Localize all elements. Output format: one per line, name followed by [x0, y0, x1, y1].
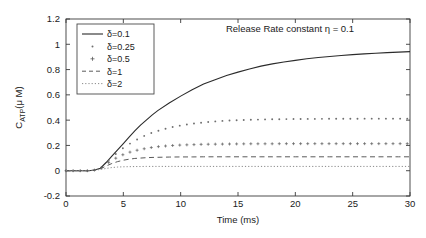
series-marker-point	[392, 118, 394, 120]
x-tick-label: 15	[233, 198, 244, 209]
y-tick-label: 0	[55, 165, 60, 176]
series-marker-point	[193, 123, 195, 125]
series-marker-plus	[207, 143, 210, 146]
series-marker-point	[236, 119, 238, 121]
series-marker-point	[378, 118, 380, 120]
series-marker-plus	[285, 142, 288, 145]
series-marker-point	[157, 130, 159, 132]
chart-legend: δ=0.1δ=0.25δ=0.5δ=1δ=2	[77, 24, 154, 94]
legend-label: δ=2	[107, 79, 122, 89]
series-marker-plus	[164, 145, 167, 148]
series-marker-point	[342, 118, 344, 120]
series-marker-point	[229, 120, 231, 122]
x-tick-label: 10	[175, 198, 186, 209]
series-marker-plus	[178, 144, 181, 147]
series-marker-point	[150, 132, 152, 134]
series-marker-point	[399, 118, 401, 120]
series-marker-point	[278, 118, 280, 120]
series-δ-2	[66, 166, 410, 170]
series-marker-plus	[192, 143, 195, 146]
series-marker-point	[285, 118, 287, 120]
series-marker-point	[214, 120, 216, 122]
series-marker-point	[122, 147, 124, 149]
legend-label: δ=0.5	[107, 54, 130, 64]
series-marker-plus	[320, 142, 323, 145]
series-marker-plus	[370, 142, 373, 145]
series-marker-point	[243, 119, 245, 121]
series-marker-point	[307, 118, 309, 120]
series-marker-point	[293, 118, 295, 120]
legend-sample-point	[92, 45, 94, 47]
series-marker-plus	[242, 142, 245, 145]
series-marker-point	[165, 128, 167, 130]
series-marker-plus	[136, 149, 139, 152]
series-marker-point	[314, 118, 316, 120]
x-tick-label: 25	[347, 198, 358, 209]
series-marker-plus	[328, 142, 331, 145]
series-marker-point	[335, 118, 337, 120]
series-marker-point	[115, 153, 117, 155]
chart-title-annotation: Release Rate constant η = 0.1	[226, 23, 354, 34]
series-marker-point	[200, 122, 202, 124]
axis-labels-layer: 051015202530-0.200.20.40.60.811.2Time (m…	[13, 13, 415, 225]
series-marker-plus	[299, 142, 302, 145]
series-marker-plus	[392, 142, 395, 145]
series-marker-plus	[306, 142, 309, 145]
x-axis-title: Time (ms)	[217, 214, 259, 225]
series-marker-plus	[256, 142, 259, 145]
series-marker-plus	[278, 142, 281, 145]
y-tick-label: 0.4	[47, 115, 60, 126]
figure-canvas: 051015202530-0.200.20.40.60.811.2Time (m…	[0, 0, 426, 238]
x-tick-label: 20	[290, 198, 301, 209]
series-marker-plus	[356, 142, 359, 145]
series-marker-plus	[292, 142, 295, 145]
series-marker-point	[357, 118, 359, 120]
series-marker-point	[328, 118, 330, 120]
series-line-dotted	[66, 166, 410, 170]
series-marker-point	[143, 135, 145, 137]
series-marker-point	[364, 118, 366, 120]
series-marker-plus	[313, 142, 316, 145]
series-marker-plus	[249, 142, 252, 145]
series-marker-point	[321, 118, 323, 120]
series-marker-point	[349, 118, 351, 120]
series-marker-point	[371, 118, 373, 120]
series-marker-plus	[150, 146, 153, 149]
series-marker-point	[172, 126, 174, 128]
series-marker-plus	[185, 143, 188, 146]
series-marker-plus	[384, 142, 387, 145]
y-axis-title-sub: ATP	[19, 108, 26, 121]
y-tick-label: 0.8	[47, 64, 60, 75]
series-marker-plus	[377, 142, 380, 145]
series-marker-point	[271, 118, 273, 120]
series-marker-plus	[221, 143, 224, 146]
series-marker-point	[207, 121, 209, 123]
y-tick-label: 1.2	[47, 13, 60, 24]
series-marker-plus	[363, 142, 366, 145]
series-marker-point	[300, 118, 302, 120]
series-marker-plus	[114, 157, 117, 160]
series-marker-point	[264, 118, 266, 120]
series-marker-point	[250, 119, 252, 121]
y-tick-label: 1	[55, 39, 60, 50]
series-line-dashed	[66, 157, 410, 171]
series-marker-plus	[200, 143, 203, 146]
series-marker-point	[186, 124, 188, 126]
series-marker-point	[136, 139, 138, 141]
series-marker-point	[385, 118, 387, 120]
series-marker-point	[179, 125, 181, 127]
chart-plot: 051015202530-0.200.20.40.60.811.2Time (m…	[0, 0, 426, 238]
series-marker-plus	[143, 147, 146, 150]
series-marker-point	[257, 119, 259, 121]
series-marker-plus	[399, 142, 402, 145]
series-marker-plus	[228, 143, 231, 146]
y-tick-label: 0.6	[47, 89, 60, 100]
series-δ-1	[66, 157, 410, 171]
x-tick-label: 5	[121, 198, 126, 209]
series-marker-plus	[335, 142, 338, 145]
series-marker-plus	[171, 144, 174, 147]
legend-label: δ=1	[107, 67, 122, 77]
series-marker-plus	[406, 142, 409, 145]
series-marker-plus	[235, 142, 238, 145]
y-tick-label: -0.2	[44, 190, 60, 201]
